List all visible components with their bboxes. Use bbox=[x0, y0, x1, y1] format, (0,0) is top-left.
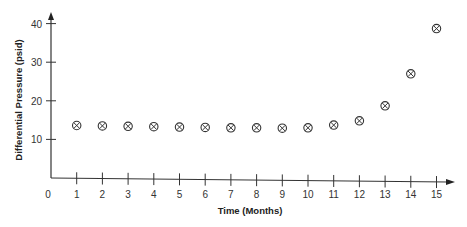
data-point-marker-icon bbox=[98, 122, 106, 130]
data-point-marker-icon bbox=[227, 124, 235, 132]
data-point-marker-icon bbox=[201, 123, 209, 131]
x-axis-title: Time (Months) bbox=[218, 205, 283, 216]
x-tick-label: 4 bbox=[151, 189, 157, 200]
chart: 10203040 0123456789101112131415 Time (Mo… bbox=[0, 0, 467, 227]
x-tick-label: 14 bbox=[405, 189, 417, 200]
y-ticks: 10203040 bbox=[31, 19, 56, 146]
data-point-marker-icon bbox=[150, 122, 158, 130]
x-ticks: 0123456789101112131415 bbox=[45, 172, 442, 200]
x-tick-label: 13 bbox=[380, 189, 392, 200]
y-axis-title: Differential Pressure (psid) bbox=[13, 39, 24, 160]
x-tick-label: 9 bbox=[280, 189, 286, 200]
x-axis-arrow-icon bbox=[446, 179, 455, 185]
x-tick-label: 0 bbox=[45, 189, 51, 200]
x-tick-label: 3 bbox=[125, 189, 131, 200]
x-tick-label: 12 bbox=[354, 189, 366, 200]
y-tick-label: 20 bbox=[31, 96, 43, 107]
x-tick-label: 2 bbox=[100, 189, 106, 200]
x-tick-label: 1 bbox=[74, 189, 80, 200]
x-axis bbox=[51, 178, 448, 182]
data-point-marker-icon bbox=[252, 124, 260, 132]
data-points bbox=[73, 24, 441, 132]
x-tick-label: 6 bbox=[202, 189, 208, 200]
x-tick-label: 10 bbox=[302, 189, 314, 200]
data-point-marker-icon bbox=[304, 124, 312, 132]
data-point-marker-icon bbox=[381, 102, 389, 110]
data-point-marker-icon bbox=[73, 121, 81, 129]
data-point-marker-icon bbox=[432, 24, 440, 32]
y-tick-label: 10 bbox=[31, 134, 43, 145]
y-axis-arrow-icon bbox=[48, 12, 54, 20]
y-tick-label: 40 bbox=[31, 19, 43, 30]
x-tick-label: 15 bbox=[431, 189, 443, 200]
data-point-marker-icon bbox=[124, 122, 132, 130]
x-tick-label: 8 bbox=[254, 189, 260, 200]
x-tick-label: 7 bbox=[228, 189, 234, 200]
x-tick-label: 5 bbox=[177, 189, 183, 200]
axes bbox=[48, 12, 455, 185]
data-point-marker-icon bbox=[355, 117, 363, 125]
data-point-marker-icon bbox=[407, 70, 415, 78]
data-point-marker-icon bbox=[175, 123, 183, 131]
y-tick-label: 30 bbox=[31, 57, 43, 68]
data-point-marker-icon bbox=[278, 124, 286, 132]
x-tick-label: 11 bbox=[329, 189, 340, 200]
data-point-marker-icon bbox=[330, 121, 338, 129]
